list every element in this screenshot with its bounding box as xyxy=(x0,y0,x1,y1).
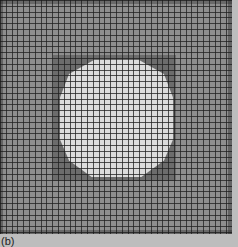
bright-disk xyxy=(60,60,173,177)
figure-image xyxy=(0,0,232,234)
bottom-border xyxy=(0,230,232,234)
left-border xyxy=(0,0,3,234)
right-border xyxy=(228,0,232,234)
figure-label: (b) xyxy=(1,235,14,247)
top-border xyxy=(0,0,232,4)
